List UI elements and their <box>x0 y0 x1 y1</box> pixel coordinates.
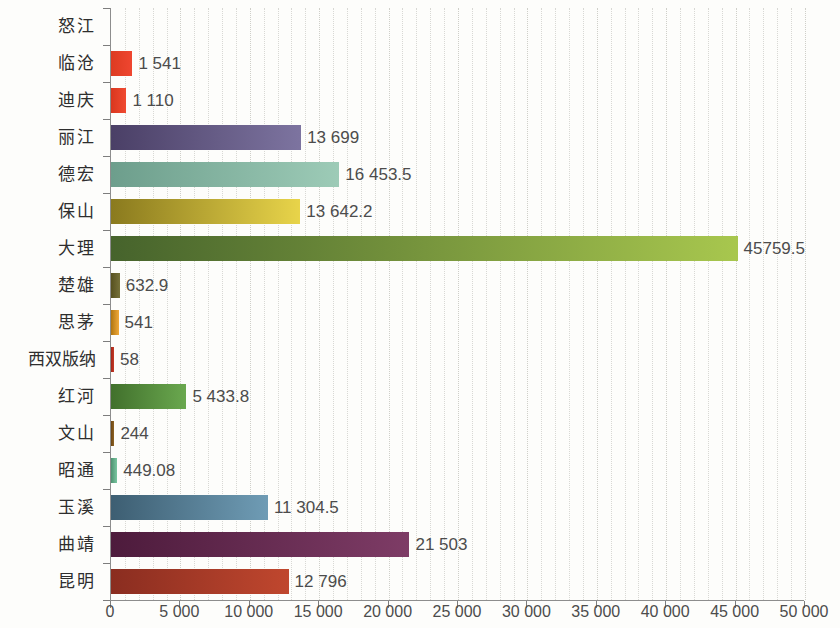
bar <box>111 569 289 594</box>
category-label: 红河 <box>58 388 96 405</box>
y-tick-mark <box>103 156 110 157</box>
x-tick-label: 0 <box>106 604 115 620</box>
bar-value-label: 632.9 <box>120 277 169 294</box>
category-label: 临沧 <box>58 55 96 72</box>
bar-row: 45759.5 <box>111 236 805 261</box>
bar-value-label: 244 <box>114 425 148 442</box>
category-label: 德宏 <box>58 166 96 183</box>
bar-value-label: 13 642.2 <box>300 203 372 220</box>
bar-row <box>111 14 805 39</box>
bar-value-label: 12 796 <box>289 573 347 590</box>
bar-row: 449.08 <box>111 458 805 483</box>
category-label: 西双版纳 <box>28 351 96 368</box>
bar-row: 5 433.8 <box>111 384 805 409</box>
bar-row: 16 453.5 <box>111 162 805 187</box>
y-tick-mark <box>103 452 110 453</box>
bar-value-label: 1 541 <box>132 55 181 72</box>
bar-value-label: 21 503 <box>409 536 467 553</box>
bar <box>111 532 409 557</box>
bar-value-label: 16 453.5 <box>339 166 411 183</box>
bar-value-label: 5 433.8 <box>186 388 249 405</box>
y-tick-mark <box>103 378 110 379</box>
bar-chart: 怒江临沧迪庆丽江德宏保山大理楚雄思茅西双版纳红河文山昭通玉溪曲靖昆明 1 541… <box>0 0 840 628</box>
category-label: 保山 <box>58 203 96 220</box>
bar-value-label: 13 699 <box>301 129 359 146</box>
bar <box>111 273 120 298</box>
gridline <box>805 8 806 600</box>
y-tick-mark <box>103 267 110 268</box>
category-label: 迪庆 <box>58 92 96 109</box>
category-label: 昭通 <box>58 462 96 479</box>
x-tick-label: 50 000 <box>780 604 829 620</box>
plot-area: 1 5411 11013 69916 453.513 642.245759.56… <box>110 8 805 600</box>
bar <box>111 236 738 261</box>
bar-row: 632.9 <box>111 273 805 298</box>
category-label: 丽江 <box>58 129 96 146</box>
bar-value-label: 45759.5 <box>738 240 805 257</box>
x-tick-label: 25 000 <box>433 604 482 620</box>
category-label: 楚雄 <box>58 277 96 294</box>
x-axis-line <box>110 600 804 601</box>
bar <box>111 51 132 76</box>
bar-row: 21 503 <box>111 532 805 557</box>
y-tick-mark <box>103 230 110 231</box>
y-tick-mark <box>103 341 110 342</box>
y-tick-mark <box>103 45 110 46</box>
x-tick-label: 45 000 <box>710 604 759 620</box>
bar <box>111 88 126 113</box>
y-tick-mark <box>103 119 110 120</box>
y-tick-mark <box>103 563 110 564</box>
category-label: 思茅 <box>58 314 96 331</box>
category-label: 玉溪 <box>58 499 96 516</box>
x-tick-label: 5 000 <box>159 604 199 620</box>
category-label: 文山 <box>58 425 96 442</box>
x-tick-label: 30 000 <box>502 604 551 620</box>
category-label: 昆明 <box>58 573 96 590</box>
bar-row: 11 304.5 <box>111 495 805 520</box>
y-tick-mark <box>103 489 110 490</box>
y-tick-mark <box>103 415 110 416</box>
category-axis-labels: 怒江临沧迪庆丽江德宏保山大理楚雄思茅西双版纳红河文山昭通玉溪曲靖昆明 <box>0 8 104 600</box>
y-tick-mark <box>103 193 110 194</box>
y-tick-mark <box>103 8 110 9</box>
bar <box>111 199 300 224</box>
x-tick-label: 15 000 <box>294 604 343 620</box>
bar-value-label: 541 <box>119 314 153 331</box>
bar-row: 58 <box>111 347 805 372</box>
x-tick-label: 20 000 <box>363 604 412 620</box>
bar-row: 1 541 <box>111 51 805 76</box>
x-tick-label: 40 000 <box>641 604 690 620</box>
bar <box>111 384 186 409</box>
y-tick-mark <box>103 526 110 527</box>
bar-value-label: 58 <box>114 351 139 368</box>
bar-value-label: 449.08 <box>117 462 175 479</box>
category-label: 怒江 <box>58 18 96 35</box>
y-tick-mark <box>103 600 110 601</box>
bar-value-label: 1 110 <box>126 92 173 109</box>
bar-row: 12 796 <box>111 569 805 594</box>
bar-row: 1 110 <box>111 88 805 113</box>
x-tick-label: 10 000 <box>224 604 273 620</box>
y-tick-mark <box>103 82 110 83</box>
category-label: 曲靖 <box>58 536 96 553</box>
bar-value-label: 11 304.5 <box>268 499 339 516</box>
category-label: 大理 <box>58 240 96 257</box>
x-tick-label: 35 000 <box>571 604 620 620</box>
y-tick-mark <box>103 304 110 305</box>
bar-row: 13 699 <box>111 125 805 150</box>
bar <box>111 495 268 520</box>
bar-rows: 1 5411 11013 69916 453.513 642.245759.56… <box>111 8 805 600</box>
bar-row: 244 <box>111 421 805 446</box>
bar <box>111 162 339 187</box>
x-axis-tick-labels: 05 00010 00015 00020 00025 00030 00035 0… <box>0 604 840 628</box>
bar <box>111 310 119 335</box>
bar-row: 541 <box>111 310 805 335</box>
bar-row: 13 642.2 <box>111 199 805 224</box>
bar <box>111 125 301 150</box>
